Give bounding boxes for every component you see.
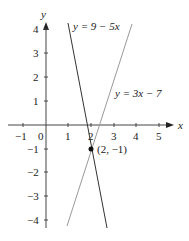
chart: y x 0 −1 1 2 3 4 5 4 3 2 1 −1 −2 −3 −4 y…	[0, 0, 189, 241]
y-tick-label: −3	[27, 190, 39, 202]
y-tick-label: −2	[27, 166, 39, 178]
origin-label: 0	[38, 130, 44, 142]
y-tick-label: 3	[33, 47, 39, 59]
point-label: (2, −1)	[97, 143, 127, 156]
y-axis-label: y	[40, 8, 46, 20]
y-tick-label: 2	[33, 71, 39, 83]
y-tick-label: 4	[33, 23, 39, 35]
y-tick-label: −1	[27, 143, 39, 155]
x-axis-label: x	[177, 119, 183, 131]
y-tick-label: 1	[33, 95, 39, 107]
intersection-point	[89, 147, 94, 152]
x-axis-arrow-icon	[166, 122, 174, 128]
x-tick-label: 4	[133, 130, 139, 142]
x-tick-label: 3	[111, 130, 117, 142]
x-tick-label: 1	[65, 130, 71, 142]
y-tick-label: −4	[27, 214, 39, 226]
x-tick-label: −1	[15, 130, 27, 142]
x-tick-label: 2	[88, 130, 94, 142]
line2-label: y = 3x − 7	[114, 87, 162, 99]
x-tick-label: 5	[156, 130, 162, 142]
line1-label: y = 9 − 5x	[72, 20, 120, 32]
